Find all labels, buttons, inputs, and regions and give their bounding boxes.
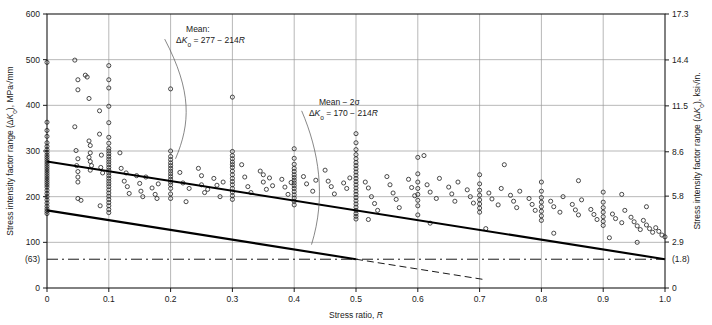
y-tick-label-right: 8.6	[672, 147, 684, 157]
x-tick-label: 0.4	[288, 294, 300, 304]
x-tick-label: 0.3	[226, 294, 238, 304]
y-tick-label-right: 5.8	[672, 191, 684, 201]
x-tick-label: 0.1	[103, 294, 115, 304]
y-tick-label-left: 400	[26, 100, 40, 110]
y-tick-label-right: 0	[672, 283, 677, 293]
x-tick-label: 0.5	[350, 294, 362, 304]
fatigue-threshold-scatter-chart: 00.10.20.30.40.50.60.70.80.91.0 60050040…	[0, 0, 712, 325]
x-tick-label: 0.6	[412, 294, 424, 304]
y-tick-label-left: 300	[26, 146, 40, 156]
y-tick-label-left: (63)	[25, 254, 40, 264]
x-tick-label: 0.8	[535, 294, 547, 304]
y-tick-label-right: 14.4	[672, 55, 689, 65]
x-axis-title: Stress ratio, R	[329, 310, 383, 320]
y-tick-label-left: 200	[26, 192, 40, 202]
x-tick-label: 0.2	[165, 294, 177, 304]
y-tick-label-right: 11.5	[672, 101, 688, 111]
y-tick-label-left: 500	[26, 55, 40, 65]
x-tick-label: 0.7	[474, 294, 486, 304]
chart-root: 00.10.20.30.40.50.60.70.80.91.0 60050040…	[0, 0, 712, 325]
x-tick-label: 0	[45, 294, 50, 304]
mean-2sigma-annotation-line1: Mean − 2σ	[319, 97, 361, 107]
y-tick-label-right: (1.8)	[672, 254, 690, 264]
x-tick-label: 1.0	[659, 294, 671, 304]
x-tick-label: 0.9	[597, 294, 609, 304]
y-tick-label-left: 0	[35, 283, 40, 293]
y-tick-label-left: 600	[26, 9, 40, 19]
mean-annotation-line1: Mean:	[186, 24, 210, 34]
y-tick-label-right: 2.9	[672, 237, 684, 247]
y-tick-label-right: 17.3	[672, 9, 689, 19]
y-tick-label-left: 100	[26, 237, 40, 247]
